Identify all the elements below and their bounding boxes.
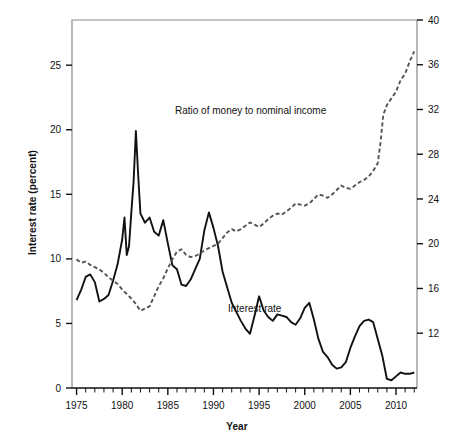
annotation-interest-rate: Interest rate [228,303,281,314]
svg-text:36: 36 [428,59,440,70]
svg-text:2010: 2010 [385,400,408,411]
svg-text:10: 10 [50,253,62,264]
annotation-money-ratio: Ratio of money to nominal income [175,105,326,116]
y-axis-left-title: Interest rate (percent) [27,123,38,283]
svg-text:5: 5 [55,318,61,329]
svg-text:20: 20 [428,238,440,249]
svg-text:40: 40 [428,15,440,26]
svg-text:2000: 2000 [294,400,317,411]
svg-text:12: 12 [428,328,440,339]
svg-text:24: 24 [428,194,440,205]
svg-text:1995: 1995 [248,400,271,411]
svg-text:15: 15 [50,189,62,200]
svg-text:32: 32 [428,104,440,115]
svg-text:28: 28 [428,149,440,160]
svg-text:1985: 1985 [157,400,180,411]
svg-text:2005: 2005 [339,400,362,411]
plot-frame [72,20,417,388]
svg-text:25: 25 [50,60,62,71]
series-line [77,51,415,311]
svg-text:1980: 1980 [111,400,134,411]
axis-ticks [66,20,423,395]
chart-figure: 1975198019851990199520002005201005101520… [0,0,474,443]
x-axis-title: Year [0,421,474,432]
data-series [77,51,415,380]
svg-text:1975: 1975 [65,400,88,411]
svg-text:16: 16 [428,283,440,294]
chart-canvas: 1975198019851990199520002005201005101520… [0,0,474,443]
svg-text:0: 0 [55,383,61,394]
series-line [77,131,415,380]
svg-text:1990: 1990 [202,400,225,411]
svg-text:20: 20 [50,124,62,135]
